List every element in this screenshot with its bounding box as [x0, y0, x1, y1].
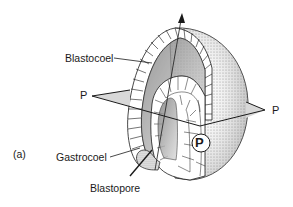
label-plane-left: P [80, 90, 87, 101]
label-plane-right: P [272, 105, 279, 116]
gastrula-illustration [0, 0, 293, 207]
label-blastopore: Blastopore [90, 183, 140, 194]
label-gastrocoel: Gastrocoel [56, 152, 107, 163]
gastrocoel-cavity [158, 98, 178, 160]
panel-label: (a) [13, 149, 26, 160]
label-blastocoel: Blastocoel [65, 53, 113, 64]
label-circled-p: P [195, 136, 204, 149]
gastrula-diagram: Blastocoel P P (a) Gastrocoel Blastopore… [0, 0, 293, 207]
